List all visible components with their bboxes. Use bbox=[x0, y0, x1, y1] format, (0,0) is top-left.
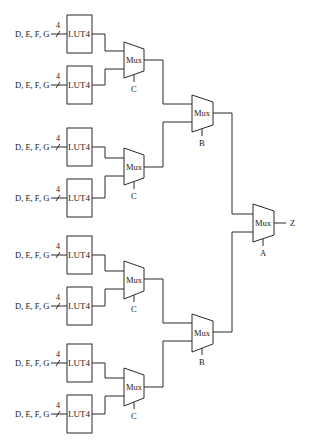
mux-c4: Mux C bbox=[124, 368, 144, 421]
select-label: B bbox=[199, 138, 205, 148]
lut-input-label: D, E, F, G bbox=[15, 409, 49, 419]
lut-input-label: D, E, F, G bbox=[15, 142, 49, 152]
lut4-label: LUT4 bbox=[68, 193, 90, 203]
wire-lut4-to-mux bbox=[92, 176, 124, 198]
mux-label: Mux bbox=[194, 108, 211, 118]
bus-width-label: 4 bbox=[56, 242, 60, 251]
lut-input-label: D, E, F, G bbox=[15, 80, 49, 90]
lut4-label: LUT4 bbox=[68, 301, 90, 311]
wire-lut5-to-mux bbox=[92, 255, 124, 271]
lut4-label: LUT4 bbox=[68, 80, 90, 90]
mux-label: Mux bbox=[255, 218, 272, 228]
lut-input-label: D, E, F, G bbox=[15, 358, 49, 368]
lut-input-label: D, E, F, G bbox=[15, 193, 49, 203]
lut-input-label: D, E, F, G bbox=[15, 250, 49, 260]
wire-muxb1-to-muxa bbox=[213, 113, 253, 214]
mux-tree-diagram: D, E, F, G 4 LUT4 D, E, F, G 4 LUT4 Mux … bbox=[0, 0, 310, 446]
lut4-label: LUT4 bbox=[68, 409, 90, 419]
select-label: C bbox=[131, 84, 137, 94]
lut4-label: LUT4 bbox=[68, 142, 90, 152]
lut-block-6: D, E, F, G 4 LUT4 bbox=[15, 287, 92, 325]
output-label: Z bbox=[290, 218, 295, 228]
wire-muxc2-to-muxb1 bbox=[144, 122, 192, 167]
mux-a: Mux A bbox=[253, 204, 274, 258]
wire-lut3-to-mux bbox=[92, 147, 124, 158]
select-label: B bbox=[199, 357, 205, 367]
lut-block-7: D, E, F, G 4 LUT4 bbox=[15, 344, 92, 382]
wire-muxc1-to-muxb1 bbox=[144, 60, 192, 104]
wire-muxc3-to-muxb2 bbox=[144, 279, 192, 323]
wire-lut6-to-mux bbox=[92, 289, 124, 306]
select-label: A bbox=[260, 248, 267, 258]
lut-block-1: D, E, F, G 4 LUT4 bbox=[15, 15, 92, 53]
mux-c3: Mux C bbox=[124, 261, 144, 314]
bus-width-label: 4 bbox=[56, 350, 60, 359]
mux-label: Mux bbox=[194, 328, 211, 338]
lut-block-4: D, E, F, G 4 LUT4 bbox=[15, 179, 92, 217]
lut4-label: LUT4 bbox=[68, 29, 90, 39]
wire-muxb2-to-muxa bbox=[213, 232, 253, 332]
bus-width-label: 4 bbox=[56, 72, 60, 81]
wire-lut8-to-mux bbox=[92, 396, 124, 414]
mux-label: Mux bbox=[126, 55, 143, 65]
wire-lut7-to-mux bbox=[92, 363, 124, 378]
wire-lut2-to-mux bbox=[92, 69, 124, 85]
mux-c2: Mux C bbox=[124, 148, 144, 201]
bus-width-label: 4 bbox=[56, 293, 60, 302]
mux-label: Mux bbox=[126, 275, 143, 285]
mux-label: Mux bbox=[126, 382, 143, 392]
select-label: C bbox=[131, 191, 137, 201]
wire-lut1-to-mux bbox=[92, 34, 124, 51]
lut-block-2: D, E, F, G 4 LUT4 bbox=[15, 66, 92, 104]
bus-width-label: 4 bbox=[56, 21, 60, 30]
select-label: C bbox=[131, 411, 137, 421]
select-label: C bbox=[131, 304, 137, 314]
mux-label: Mux bbox=[126, 162, 143, 172]
lut-block-8: D, E, F, G 4 LUT4 bbox=[15, 395, 92, 433]
bus-width-label: 4 bbox=[56, 185, 60, 194]
lut-block-5: D, E, F, G 4 LUT4 bbox=[15, 236, 92, 274]
wire-muxc4-to-muxb2 bbox=[144, 341, 192, 387]
lut4-label: LUT4 bbox=[68, 358, 90, 368]
bus-width-label: 4 bbox=[56, 401, 60, 410]
lut4-label: LUT4 bbox=[68, 250, 90, 260]
lut-input-label: D, E, F, G bbox=[15, 301, 49, 311]
bus-width-label: 4 bbox=[56, 134, 60, 143]
mux-c1: Mux C bbox=[124, 42, 144, 94]
lut-input-label: D, E, F, G bbox=[15, 29, 49, 39]
mux-b2: Mux B bbox=[192, 314, 213, 367]
lut-block-3: D, E, F, G 4 LUT4 bbox=[15, 128, 92, 166]
mux-b1: Mux B bbox=[192, 95, 213, 148]
